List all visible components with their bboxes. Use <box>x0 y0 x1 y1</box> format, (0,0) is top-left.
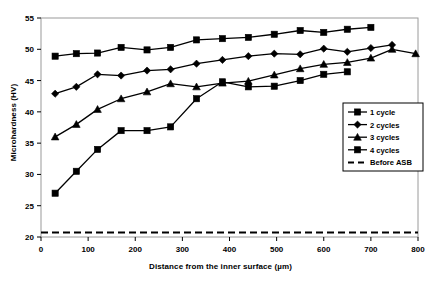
data-point-marker <box>321 29 327 35</box>
y-tick-label: 20 <box>25 233 34 242</box>
data-point-marker <box>193 96 199 102</box>
data-point-marker <box>144 47 150 53</box>
data-point-marker <box>118 128 124 134</box>
legend-label-2-cycles: 2 cycles <box>370 121 400 130</box>
chart-plot-area: 2025303540455055010020030040050060070080… <box>0 0 441 282</box>
data-point-marker <box>354 109 360 115</box>
y-tick-label: 30 <box>25 170 34 179</box>
data-point-marker <box>344 69 350 75</box>
data-point-marker <box>219 79 225 85</box>
data-point-marker <box>144 128 150 134</box>
x-tick-label: 200 <box>129 245 143 254</box>
y-tick-label: 35 <box>25 139 34 148</box>
data-point-marker <box>271 31 277 37</box>
y-tick-label: 55 <box>25 14 34 23</box>
data-point-marker <box>245 84 251 90</box>
data-point-marker <box>368 24 374 30</box>
data-point-marker <box>297 77 303 83</box>
legend-label-before-asb: Before ASB <box>370 158 412 167</box>
y-tick-label: 25 <box>25 202 34 211</box>
x-tick-label: 500 <box>270 245 284 254</box>
x-tick-label: 600 <box>317 245 331 254</box>
y-tick-label: 40 <box>25 108 34 117</box>
data-point-marker <box>52 190 58 196</box>
data-point-marker <box>73 51 79 57</box>
x-tick-label: 0 <box>39 245 44 254</box>
data-point-marker <box>167 44 173 50</box>
data-point-marker <box>344 26 350 32</box>
data-point-marker <box>73 168 79 174</box>
data-point-marker <box>297 27 303 33</box>
data-point-marker <box>167 124 173 130</box>
x-tick-label: 100 <box>81 245 95 254</box>
y-axis-title: Microhardness (HV) <box>9 58 18 188</box>
x-axis-title: Distance from the inner surface (µm) <box>0 262 441 271</box>
x-tick-label: 800 <box>411 245 425 254</box>
legend-label-3-cycles: 3 cycles <box>370 133 400 142</box>
chart-legend: 1 cycle2 cycles3 cycles4 cyclesBefore AS… <box>343 103 423 171</box>
x-tick-label: 400 <box>223 245 237 254</box>
x-tick-label: 300 <box>176 245 190 254</box>
legend-label-1-cycle: 1 cycle <box>370 108 395 117</box>
data-point-marker <box>94 146 100 152</box>
y-tick-label: 50 <box>25 45 34 54</box>
data-point-marker <box>94 50 100 56</box>
x-tick-label: 700 <box>364 245 378 254</box>
data-point-marker <box>321 71 327 77</box>
data-point-marker <box>245 34 251 40</box>
y-tick-label: 45 <box>25 77 34 86</box>
data-point-marker <box>219 36 225 42</box>
chart-figure: 2025303540455055010020030040050060070080… <box>0 0 441 282</box>
data-point-marker <box>354 147 360 153</box>
data-point-marker <box>52 53 58 59</box>
data-point-marker <box>118 44 124 50</box>
data-point-marker <box>193 37 199 43</box>
legend-label-4-cycles: 4 cycles <box>370 146 400 155</box>
data-point-marker <box>271 83 277 89</box>
